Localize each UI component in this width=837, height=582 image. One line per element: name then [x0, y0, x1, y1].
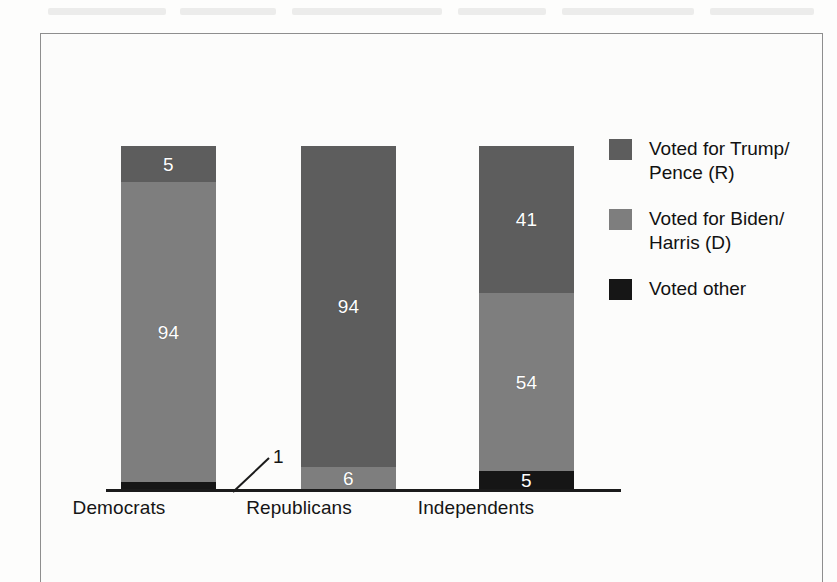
legend-item-label: Voted other — [649, 277, 746, 301]
figure-canvas: 5 94 1 1 94 — [41, 34, 822, 582]
bar-value-label: 5 — [163, 155, 174, 174]
bar-value-label: 54 — [516, 373, 538, 392]
stacked-bar-chart: 5 94 1 1 94 — [41, 34, 824, 582]
bar-group-independents[interactable]: 41 54 5 — [479, 146, 574, 489]
bar-segment-republicans-trump[interactable]: 94 — [301, 146, 396, 467]
x-axis-tick-label-democrats: Democrats — [29, 497, 209, 519]
bar-segment-democrats-trump[interactable]: 5 — [121, 146, 216, 182]
legend-swatch-icon — [609, 279, 632, 300]
figure-frame: 5 94 1 1 94 — [40, 33, 823, 582]
bar-group-democrats[interactable]: 5 94 1 — [121, 146, 216, 489]
bar-segment-democrats-other[interactable]: 1 — [121, 482, 216, 489]
legend-item-label: Voted for Biden/ Harris (D) — [649, 207, 784, 255]
bar-segment-independents-other[interactable]: 5 — [479, 471, 574, 489]
x-axis-line — [106, 489, 621, 492]
legend-item-trump[interactable]: Voted for Trump/ Pence (R) — [609, 137, 819, 185]
bar-value-label: 94 — [338, 297, 360, 316]
bar-segment-democrats-biden[interactable]: 94 — [121, 182, 216, 482]
bar-segment-independents-biden[interactable]: 54 — [479, 293, 574, 471]
bar-value-label: 41 — [516, 210, 538, 229]
legend-swatch-icon — [609, 209, 632, 230]
legend-item-other[interactable]: Voted other — [609, 277, 819, 301]
legend-item-label: Voted for Trump/ Pence (R) — [649, 137, 789, 185]
x-axis-tick-label-independents: Independents — [386, 497, 566, 519]
legend-item-biden[interactable]: Voted for Biden/ Harris (D) — [609, 207, 819, 255]
chart-legend: Voted for Trump/ Pence (R) Voted for Bid… — [609, 137, 819, 323]
bar-group-republicans[interactable]: 94 6 — [301, 146, 396, 489]
legend-swatch-icon — [609, 139, 632, 160]
bar-segment-independents-trump[interactable]: 41 — [479, 146, 574, 293]
bar-value-label: 94 — [158, 323, 180, 342]
x-axis-tick-label-republicans: Republicans — [209, 497, 389, 519]
bar-value-label: 5 — [521, 471, 532, 490]
bar-value-label: 6 — [343, 469, 354, 488]
bar-segment-republicans-biden[interactable]: 6 — [301, 467, 396, 489]
callout-value-label: 1 — [273, 446, 284, 468]
